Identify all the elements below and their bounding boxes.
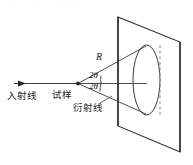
sample-label: 试样 bbox=[52, 90, 72, 100]
angle-label-upper: 2θ bbox=[89, 71, 98, 80]
radius-label: R bbox=[96, 52, 102, 62]
diffraction-ring bbox=[133, 45, 160, 115]
diffraction-cone-figure: ·· ··· ··· ···· ·· ··· ···· 入射线 bbox=[0, 0, 193, 165]
angle-label-lower: 2θ bbox=[89, 82, 98, 91]
angle-arc-lower bbox=[100, 84, 101, 92]
incident-ray-arrow-icon bbox=[18, 81, 26, 87]
detector-plane bbox=[118, 17, 180, 152]
incident-ray-label: 入射线 bbox=[7, 91, 38, 101]
diffracted-ray-label: 衍射线 bbox=[73, 103, 104, 113]
